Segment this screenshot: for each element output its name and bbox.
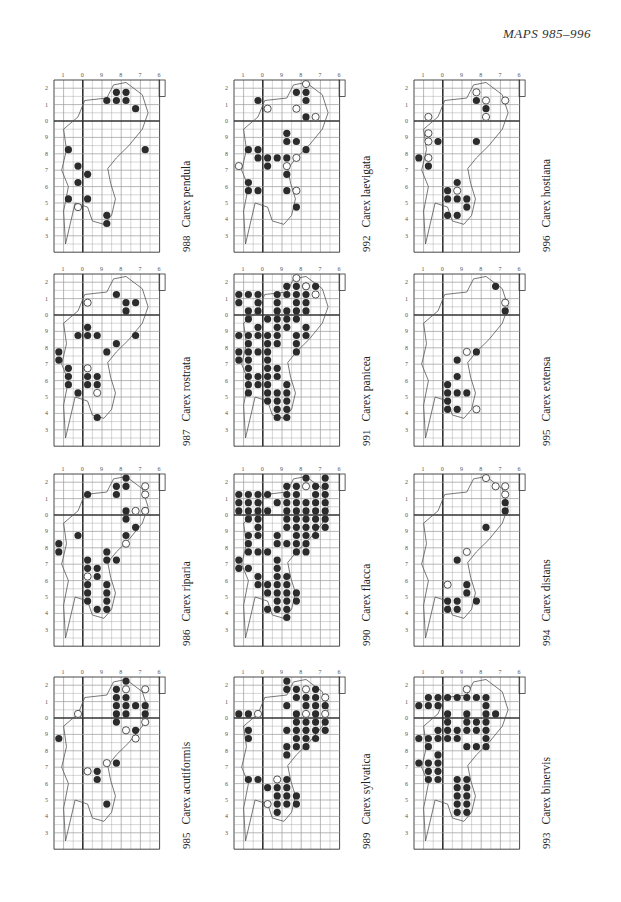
map-number: 985: [180, 833, 192, 850]
filled-record-dot: [302, 291, 309, 298]
filled-record-dot: [245, 146, 252, 153]
filled-record-dot: [473, 348, 480, 355]
svg-text:6: 6: [405, 378, 408, 384]
filled-record-dot: [302, 524, 309, 531]
svg-text:6: 6: [158, 466, 161, 472]
filled-record-dot: [122, 710, 129, 717]
svg-text:6: 6: [518, 466, 521, 472]
svg-text:3: 3: [45, 830, 48, 836]
filled-record-dot: [55, 348, 62, 355]
svg-text:5: 5: [225, 394, 228, 400]
svg-text:2: 2: [45, 682, 48, 688]
filled-record-dot: [264, 373, 271, 380]
open-record-dot: [302, 81, 309, 88]
filled-record-dot: [132, 702, 139, 709]
open-record-dot: [302, 710, 309, 717]
open-record-dot: [454, 187, 461, 194]
svg-text:8: 8: [299, 669, 302, 675]
filled-record-dot: [245, 516, 252, 523]
filled-record-dot: [454, 373, 461, 380]
svg-text:7: 7: [318, 466, 321, 472]
filled-record-dot: [425, 768, 432, 775]
svg-text:1: 1: [405, 699, 408, 705]
svg-text:0: 0: [81, 72, 84, 78]
svg-text:8: 8: [299, 466, 302, 472]
filled-record-dot: [293, 598, 300, 605]
open-record-dot: [235, 163, 242, 170]
svg-text:9: 9: [460, 669, 463, 675]
svg-text:6: 6: [338, 466, 341, 472]
map-caption: 986Carex riparia: [180, 561, 192, 646]
open-record-dot: [293, 187, 300, 194]
open-record-dot: [425, 113, 432, 120]
svg-text:2: 2: [405, 85, 408, 91]
svg-text:0: 0: [45, 715, 48, 721]
page-header: MAPS 985–996: [503, 26, 591, 42]
filled-record-dot: [283, 581, 290, 588]
svg-text:4: 4: [405, 410, 408, 416]
filled-record-dot: [444, 406, 451, 413]
filled-record-dot: [55, 357, 62, 364]
filled-record-dot: [94, 768, 101, 775]
distribution-map-988: 1098762109876543988Carex pendula: [40, 68, 210, 258]
filled-record-dot: [473, 694, 480, 701]
map-number: 991: [360, 430, 372, 447]
filled-record-dot: [283, 614, 290, 621]
svg-text:3: 3: [45, 627, 48, 633]
filled-record-dot: [502, 507, 509, 514]
filled-record-dot: [254, 348, 261, 355]
filled-record-dot: [454, 179, 461, 186]
filled-record-dot: [454, 357, 461, 364]
svg-text:0: 0: [45, 512, 48, 518]
svg-text:0: 0: [81, 466, 84, 472]
svg-text:8: 8: [479, 669, 482, 675]
filled-record-dot: [235, 332, 242, 339]
svg-text:7: 7: [318, 72, 321, 78]
open-record-dot: [482, 113, 489, 120]
filled-record-dot: [293, 735, 300, 742]
filled-record-dot: [283, 324, 290, 331]
map-grid: 1098762109876543: [400, 665, 532, 855]
filled-record-dot: [94, 606, 101, 613]
filled-record-dot: [293, 694, 300, 701]
svg-text:4: 4: [45, 813, 48, 819]
filled-record-dot: [463, 727, 470, 734]
map-caption: 991Carex panicea: [360, 356, 372, 446]
filled-record-dot: [245, 776, 252, 783]
map-caption: 989Carex sylvatica: [360, 753, 372, 849]
svg-text:8: 8: [45, 151, 48, 157]
filled-record-dot: [454, 776, 461, 783]
filled-record-dot: [274, 598, 281, 605]
svg-text:2: 2: [405, 479, 408, 485]
filled-record-dot: [463, 581, 470, 588]
open-record-dot: [302, 283, 309, 290]
svg-text:5: 5: [405, 394, 408, 400]
filled-record-dot: [434, 776, 441, 783]
svg-text:0: 0: [225, 512, 228, 518]
filled-record-dot: [463, 809, 470, 816]
species-name: Carex extensa: [540, 357, 552, 422]
filled-record-dot: [254, 332, 261, 339]
svg-text:4: 4: [45, 410, 48, 416]
filled-record-dot: [283, 727, 290, 734]
svg-text:9: 9: [100, 669, 103, 675]
filled-record-dot: [283, 743, 290, 750]
filled-record-dot: [65, 365, 72, 372]
filled-record-dot: [132, 299, 139, 306]
filled-record-dot: [65, 373, 72, 380]
filled-record-dot: [254, 381, 261, 388]
svg-text:1: 1: [45, 296, 48, 302]
filled-record-dot: [142, 710, 149, 717]
svg-text:8: 8: [225, 748, 228, 754]
svg-text:3: 3: [45, 233, 48, 239]
open-record-dot: [463, 686, 470, 693]
svg-text:9: 9: [405, 328, 408, 334]
svg-text:9: 9: [45, 731, 48, 737]
svg-text:6: 6: [225, 578, 228, 584]
map-number: 996: [540, 236, 552, 253]
filled-record-dot: [245, 179, 252, 186]
svg-text:6: 6: [158, 669, 161, 675]
filled-record-dot: [444, 606, 451, 613]
coastline-outline: [242, 276, 328, 438]
filled-record-dot: [254, 524, 261, 531]
